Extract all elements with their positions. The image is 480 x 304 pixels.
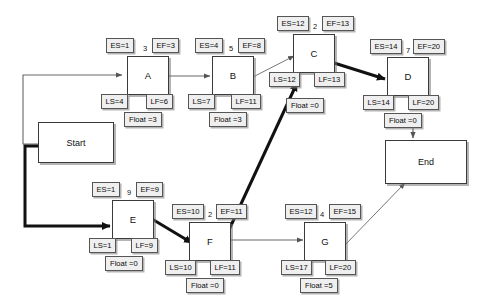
node-g-duration: 4 bbox=[320, 211, 324, 219]
edge-e-to-f bbox=[152, 219, 192, 243]
node-b[interactable]: B bbox=[212, 56, 254, 95]
node-g-lf: LF=20 bbox=[325, 260, 356, 275]
node-e-duration: 9 bbox=[127, 189, 131, 197]
node-b-ls: LS=7 bbox=[188, 94, 215, 109]
node-g-ls: LS=17 bbox=[281, 260, 312, 275]
node-e-lf: LF=9 bbox=[131, 238, 158, 253]
terminal-start-label: Start bbox=[66, 138, 85, 148]
terminal-start[interactable]: Start bbox=[38, 122, 114, 163]
node-f-duration: 2 bbox=[208, 211, 212, 219]
node-g[interactable]: G bbox=[304, 222, 346, 261]
node-d-ls: LS=14 bbox=[363, 95, 394, 110]
node-a-duration: 3 bbox=[143, 45, 147, 53]
node-c-label: C bbox=[310, 48, 317, 59]
node-e-ef: EF=9 bbox=[136, 182, 163, 197]
terminal-end-label: End bbox=[418, 157, 434, 167]
node-c-float: Float =0 bbox=[286, 98, 324, 113]
node-c-lf: LF=13 bbox=[314, 72, 345, 87]
node-b-ef: EF=8 bbox=[238, 38, 265, 53]
node-g-ef: EF=15 bbox=[329, 204, 361, 219]
node-a-lf: LF=6 bbox=[146, 94, 173, 109]
node-b-duration: 5 bbox=[229, 45, 233, 53]
node-d-lf: LF=20 bbox=[408, 95, 439, 110]
node-f-label: F bbox=[207, 236, 213, 247]
node-a[interactable]: A bbox=[127, 56, 169, 95]
node-a-ef: EF=3 bbox=[152, 38, 179, 53]
node-b-lf: LF=11 bbox=[231, 94, 261, 109]
terminal-end[interactable]: End bbox=[385, 140, 467, 184]
node-e-float: Float =0 bbox=[105, 256, 143, 271]
node-g-float: Float =5 bbox=[300, 278, 338, 293]
node-a-label: A bbox=[145, 70, 152, 81]
node-f-es: ES=10 bbox=[172, 204, 204, 219]
node-d-ef: EF=20 bbox=[413, 39, 445, 54]
node-e-es: ES=1 bbox=[92, 182, 120, 197]
node-f-ls: LS=10 bbox=[165, 260, 196, 275]
node-c-ef: EF=13 bbox=[322, 16, 354, 31]
node-a-ls: LS=4 bbox=[101, 94, 128, 109]
node-c-duration: 2 bbox=[313, 23, 317, 31]
node-f-float: Float =0 bbox=[186, 278, 224, 293]
node-e[interactable]: E bbox=[112, 200, 154, 239]
node-d-label: D bbox=[404, 71, 411, 82]
node-d[interactable]: D bbox=[387, 57, 429, 96]
node-f-ef: EF=11 bbox=[216, 204, 247, 219]
node-d-es: ES=14 bbox=[370, 39, 402, 54]
node-d-float: Float =0 bbox=[384, 113, 422, 128]
node-e-label: E bbox=[130, 214, 137, 225]
node-c-ls: LS=12 bbox=[269, 72, 300, 87]
node-e-ls: LS=1 bbox=[89, 238, 116, 253]
node-a-float: Float =3 bbox=[124, 112, 162, 127]
node-b-label: B bbox=[230, 70, 237, 81]
node-b-float: Float =3 bbox=[209, 112, 247, 127]
node-b-es: ES=4 bbox=[195, 38, 223, 53]
node-c[interactable]: C bbox=[293, 34, 335, 73]
node-f[interactable]: F bbox=[189, 222, 231, 261]
node-g-es: ES=12 bbox=[285, 204, 317, 219]
node-c-es: ES=12 bbox=[277, 16, 309, 31]
node-g-label: G bbox=[321, 236, 329, 247]
node-a-es: ES=1 bbox=[106, 38, 134, 53]
node-f-lf: LF=11 bbox=[210, 260, 240, 275]
node-d-duration: 7 bbox=[406, 47, 410, 55]
network-diagram-canvas: Start End ES=1 3 EF=3 A LS=4 LF=6 Float … bbox=[0, 0, 480, 304]
